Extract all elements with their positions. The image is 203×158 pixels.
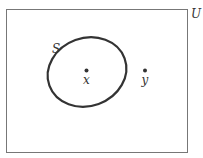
set-label: S [52,42,60,56]
point-x-label: x [83,73,90,87]
universe-label: U [191,7,202,21]
point-y-dot [143,69,147,73]
venn-diagram: U S x y [0,0,203,158]
point-y-label: y [141,73,149,87]
universe-rectangle [7,10,188,153]
point-x-dot [85,69,89,73]
